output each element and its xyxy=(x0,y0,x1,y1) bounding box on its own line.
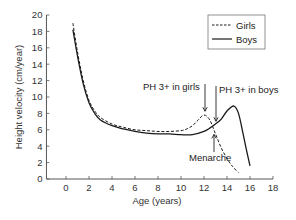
x-tick-label: 6 xyxy=(132,182,137,193)
legend: Girls Boys xyxy=(208,15,265,49)
x-tick-label: 8 xyxy=(155,182,160,193)
x-tick-label: 18 xyxy=(268,182,279,193)
x-tick-label: 10 xyxy=(176,182,187,193)
y-tick-label: 12 xyxy=(32,75,43,86)
y-tick-label: 16 xyxy=(32,42,43,53)
y-tick-label: 4 xyxy=(37,141,42,152)
y-axis-label: Height velocity (cm/year) xyxy=(13,45,24,150)
x-tick-label: 16 xyxy=(245,182,256,193)
legend-girls-label: Girls xyxy=(236,20,256,31)
height-velocity-chart: 02468101214161820024681012141618 Age (ye… xyxy=(0,0,296,220)
x-tick-label: 4 xyxy=(109,182,114,193)
x-tick-label: 14 xyxy=(222,182,233,193)
y-tick-label: 0 xyxy=(37,173,42,184)
x-tick-label: 0 xyxy=(63,182,68,193)
x-tick-label: 2 xyxy=(86,182,91,193)
y-tick-label: 2 xyxy=(37,157,42,168)
x-tick-label: 12 xyxy=(199,182,210,193)
x-axis-label: Age (years) xyxy=(132,195,181,206)
series-boys-line xyxy=(73,30,250,166)
y-tick-label: 20 xyxy=(32,9,43,20)
annotation-ph3-girls: PH 3+ in girls xyxy=(143,81,200,92)
y-tick-label: 6 xyxy=(37,124,42,135)
annotation-ph3-boys: PH 3+ in boys xyxy=(219,84,279,95)
annotation-arrows xyxy=(203,84,218,152)
y-tick-label: 10 xyxy=(32,91,43,102)
legend-boys-label: Boys xyxy=(236,34,257,45)
y-tick-label: 18 xyxy=(32,26,43,37)
y-tick-label: 8 xyxy=(37,108,42,119)
annotation-menarche: Menarche xyxy=(189,152,231,163)
y-tick-label: 14 xyxy=(32,59,43,70)
